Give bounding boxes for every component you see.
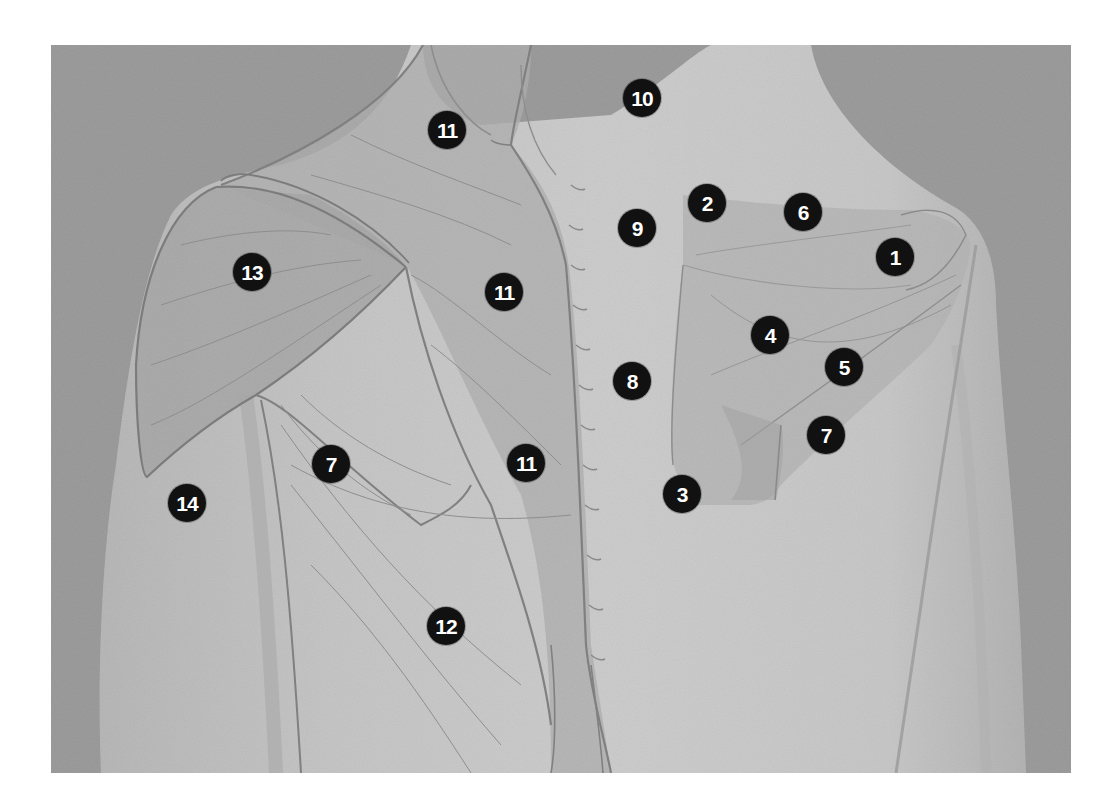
marker-3[interactable]: 3: [663, 475, 701, 513]
marker-10[interactable]: 10: [623, 79, 661, 117]
marker-11[interactable]: 11: [507, 444, 545, 482]
marker-7[interactable]: 7: [807, 416, 845, 454]
marker-12[interactable]: 12: [427, 607, 465, 645]
marker-11[interactable]: 11: [485, 273, 523, 311]
marker-14[interactable]: 14: [168, 484, 206, 522]
marker-7[interactable]: 7: [312, 445, 350, 483]
marker-1[interactable]: 1: [876, 238, 914, 276]
marker-6[interactable]: 6: [784, 193, 822, 231]
marker-11[interactable]: 11: [428, 111, 466, 149]
marker-4[interactable]: 4: [751, 316, 789, 354]
marker-2[interactable]: 2: [688, 184, 726, 222]
marker-5[interactable]: 5: [825, 348, 863, 386]
marker-9[interactable]: 9: [618, 209, 656, 247]
anatomy-figure: 123456778910111111121314: [51, 45, 1071, 773]
marker-13[interactable]: 13: [233, 253, 271, 291]
marker-8[interactable]: 8: [613, 362, 651, 400]
torso-illustration: [51, 45, 1071, 773]
